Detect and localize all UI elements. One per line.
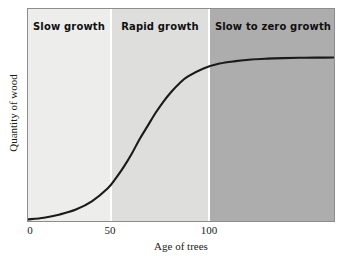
- x-tick-100: 100: [196, 224, 222, 237]
- x-axis-title: Age of trees: [27, 240, 335, 253]
- x-tick-50: 50: [100, 224, 120, 237]
- x-tick-0: 0: [20, 224, 40, 237]
- growth-curve-path: [28, 57, 335, 219]
- y-axis-title-wrapper: Quantity of wood: [0, 106, 78, 120]
- growth-curve-figure: Slow growth Rapid growth Slow to zero gr…: [0, 0, 346, 258]
- y-axis-title: Quantity of wood: [6, 48, 20, 178]
